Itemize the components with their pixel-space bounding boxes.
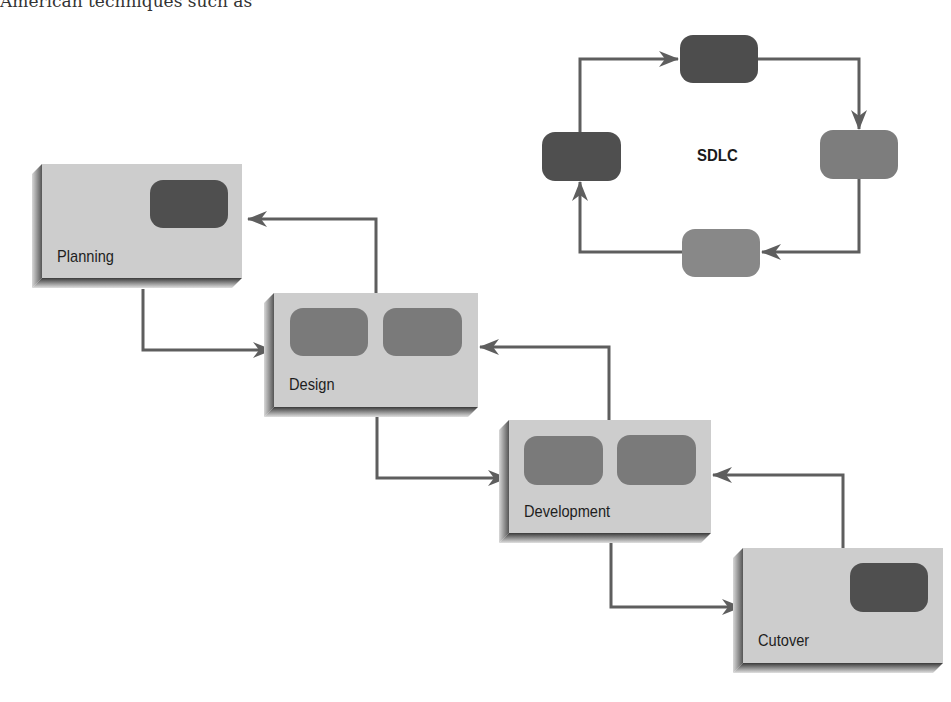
phase-label-cutover: Cutover xyxy=(758,632,809,649)
cycle-node-right xyxy=(820,130,898,179)
cycle-arrow-bottom-to-left xyxy=(580,182,682,252)
inner-block-medium xyxy=(524,436,603,485)
box-side-bevel xyxy=(733,548,743,673)
inner-block-dark xyxy=(150,180,228,228)
arrow-development-to-design xyxy=(480,347,609,420)
phase-box-cutover xyxy=(733,548,943,673)
box-side-bevel xyxy=(32,164,42,288)
sdlc-diagram xyxy=(0,0,951,702)
cycle-node-top xyxy=(680,35,758,83)
arrow-design-to-development xyxy=(377,417,507,478)
inner-block-medium xyxy=(290,308,368,356)
inner-block-medium xyxy=(617,435,696,485)
phase-label-development: Development xyxy=(524,503,610,520)
cycle-node-left xyxy=(542,132,621,181)
phase-box-development xyxy=(499,420,711,543)
cycle-node-bottom xyxy=(682,229,760,277)
phase-label-design: Design xyxy=(289,376,335,393)
arrow-cutover-to-development xyxy=(713,475,843,548)
box-bottom-bevel xyxy=(499,533,711,543)
phase-box-planning xyxy=(32,164,242,288)
cycle-arrow-right-to-bottom xyxy=(762,179,859,252)
inner-block-medium xyxy=(383,308,462,356)
box-bottom-bevel xyxy=(32,278,242,288)
cycle-arrow-top-to-right xyxy=(758,59,859,129)
phase-connectors xyxy=(143,219,843,607)
cycle-arrow-left-to-top xyxy=(580,59,678,132)
inner-block-dark xyxy=(850,563,928,612)
phase-box-design xyxy=(264,293,478,417)
box-side-bevel xyxy=(499,420,509,543)
box-side-bevel xyxy=(264,293,274,417)
arrow-design-to-planning xyxy=(248,219,376,293)
box-bottom-bevel xyxy=(733,663,943,673)
arrow-development-to-cutover xyxy=(611,543,741,607)
box-bottom-bevel xyxy=(264,407,478,417)
sdlc-title: SDLC xyxy=(697,147,738,164)
phase-label-planning: Planning xyxy=(57,248,114,265)
arrow-planning-to-design xyxy=(143,289,272,350)
